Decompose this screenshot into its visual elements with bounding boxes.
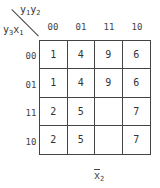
kmap-cell: 4 [68,41,96,69]
kmap-cell: 4 [68,69,96,97]
kmap-cell: 6 [123,69,151,97]
kmap-cell: 7 [123,98,151,126]
column-header: 00 [39,22,67,32]
kmap-cell: 1 [40,69,68,97]
bottom-variable-label: x2 [94,170,104,183]
kmap-grid: 1 4 9 6 1 4 9 6 2 5 7 2 5 7 [39,40,151,155]
kmap-cell: 7 [123,126,151,154]
column-header: 11 [95,22,123,32]
row-header: 00 [24,51,38,61]
kmap-cell [95,98,123,126]
column-header: 01 [67,22,95,32]
row-header: 11 [24,108,38,118]
kmap-cell: 9 [95,41,123,69]
kmap-cell: 6 [123,41,151,69]
kmap-cell: 1 [40,41,68,69]
kmap-cell: 9 [95,69,123,97]
kmap-cell: 2 [40,126,68,154]
column-variables-label: y1y2 [20,5,41,18]
column-header: 10 [123,22,151,32]
kmap-cell: 5 [68,98,96,126]
row-header: 10 [24,137,38,147]
row-header: 01 [24,80,38,90]
kmap-cell: 5 [68,126,96,154]
row-variables-label: y3x1 [3,25,24,38]
kmap-cell: 2 [40,98,68,126]
kmap-cell [95,126,123,154]
